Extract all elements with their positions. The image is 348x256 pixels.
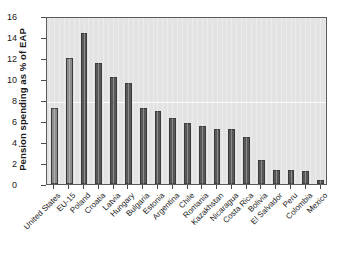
plot-texture-band xyxy=(74,18,75,184)
y-axis-tick-label: 10 xyxy=(0,75,17,85)
plot-texture-band xyxy=(286,18,287,184)
y-axis-tick-label: 12 xyxy=(0,54,17,64)
plot-texture-band xyxy=(128,18,129,184)
plot-texture-band xyxy=(113,18,114,184)
plot-texture-band xyxy=(98,18,99,184)
plot-texture-band xyxy=(202,18,203,184)
plot-texture-band xyxy=(276,18,277,184)
y-axis-tick-label: 6 xyxy=(0,117,17,127)
plot-texture-band xyxy=(246,18,247,184)
pension-spending-bar-chart: Pension spending as % of EAP 02468101214… xyxy=(0,0,348,256)
plot-texture-band xyxy=(217,18,218,184)
plot-texture-band xyxy=(153,18,154,184)
plot-texture-band xyxy=(251,18,252,184)
y-axis-tick-label: 4 xyxy=(0,138,17,148)
plot-texture-band xyxy=(167,18,168,184)
plot-texture-band xyxy=(197,18,198,184)
plot-texture-band xyxy=(281,18,282,184)
plot-texture-band xyxy=(241,18,242,184)
plot-texture-band xyxy=(291,18,292,184)
y-axis-tick-mark xyxy=(41,185,46,186)
plot-texture-band xyxy=(49,18,50,184)
plot-texture-band xyxy=(212,18,213,184)
plot-texture-band xyxy=(300,18,301,184)
plot-texture-band xyxy=(177,18,178,184)
plot-texture-band xyxy=(59,18,60,184)
plot-texture-band xyxy=(325,18,326,184)
plot-texture-band xyxy=(315,18,316,184)
plot-texture-band xyxy=(69,18,70,184)
plot-texture-band xyxy=(84,18,85,184)
plot-texture-band xyxy=(226,18,227,184)
plot-texture-band xyxy=(162,18,163,184)
plot-texture-band xyxy=(236,18,237,184)
y-axis-tick-label: 2 xyxy=(0,159,17,169)
plot-texture-band xyxy=(157,18,158,184)
plot-texture-band xyxy=(266,18,267,184)
plot-texture-band xyxy=(207,18,208,184)
plot-texture-band xyxy=(182,18,183,184)
plot-texture-band xyxy=(54,18,55,184)
plot-texture-band xyxy=(310,18,311,184)
plot-texture-band xyxy=(123,18,124,184)
plot-texture-band xyxy=(118,18,119,184)
plot-texture-band xyxy=(148,18,149,184)
plot-texture-band xyxy=(271,18,272,184)
plot-texture-band xyxy=(222,18,223,184)
plot-texture-band xyxy=(231,18,232,184)
plot-texture-band xyxy=(138,18,139,184)
plot-texture-band xyxy=(172,18,173,184)
plot-texture-band xyxy=(93,18,94,184)
plot-texture-band xyxy=(261,18,262,184)
y-axis-tick-label: 0 xyxy=(0,180,17,190)
plot-texture-band xyxy=(143,18,144,184)
plot-texture-band xyxy=(103,18,104,184)
plot-texture-band xyxy=(64,18,65,184)
plot-texture-band xyxy=(133,18,134,184)
plot-texture-band xyxy=(192,18,193,184)
y-axis-tick-label: 8 xyxy=(0,96,17,106)
y-axis-tick-label: 16 xyxy=(0,12,17,22)
plot-texture-band xyxy=(320,18,321,184)
plot-texture-band xyxy=(305,18,306,184)
y-axis-tick-label: 14 xyxy=(0,33,17,43)
plot-texture-band xyxy=(108,18,109,184)
x-axis-tick-mark xyxy=(53,185,54,189)
plot-texture-band xyxy=(79,18,80,184)
plot-texture-band xyxy=(256,18,257,184)
plot-texture-band xyxy=(295,18,296,184)
plot-texture-band xyxy=(187,18,188,184)
y-axis-title: Pension spending as % of EAP xyxy=(17,10,28,190)
